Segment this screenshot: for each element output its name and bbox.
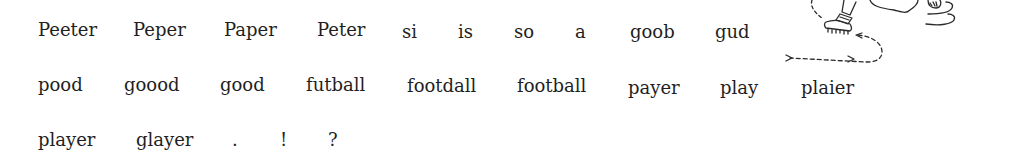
word-card[interactable]: good [220, 76, 265, 94]
ball-trajectory-path [790, 35, 882, 62]
body-outline [870, 0, 918, 12]
punctuation-card[interactable]: . [232, 131, 238, 149]
running-footballer-drawing-icon [770, 0, 1015, 75]
speed-line-2 [926, 14, 955, 25]
word-card[interactable]: goood [124, 76, 180, 94]
punctuation-card[interactable]: ? [328, 131, 338, 149]
word-card[interactable]: pood [38, 76, 83, 94]
word-card[interactable]: player [38, 131, 95, 149]
word-card[interactable]: Peeter [38, 21, 97, 39]
leg-outline [842, 0, 856, 15]
word-card[interactable]: so [514, 23, 534, 41]
punctuation-card[interactable]: ! [280, 131, 287, 149]
word-card[interactable]: payer [628, 79, 680, 97]
word-card[interactable]: is [458, 23, 473, 41]
word-card[interactable]: si [402, 23, 417, 41]
motion-path-upper [811, 0, 822, 18]
word-card[interactable]: play [720, 79, 758, 97]
word-card[interactable]: footdall [407, 77, 476, 95]
word-card[interactable]: Peter [317, 21, 365, 39]
word-card[interactable]: goob [630, 23, 675, 41]
word-card[interactable]: glayer [136, 131, 193, 149]
word-card[interactable]: futball [306, 76, 365, 94]
word-card[interactable]: Peper [133, 21, 186, 39]
word-card[interactable]: football [517, 77, 586, 95]
arrowhead-start [786, 55, 792, 61]
word-card[interactable]: Paper [224, 21, 277, 39]
word-card[interactable]: a [575, 23, 586, 41]
word-card[interactable]: gud [715, 23, 750, 41]
word-card[interactable]: plaier [801, 79, 854, 97]
